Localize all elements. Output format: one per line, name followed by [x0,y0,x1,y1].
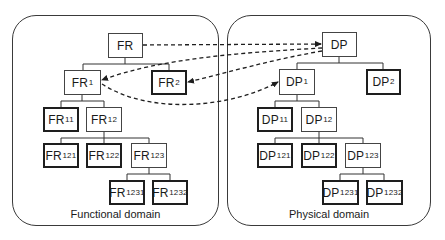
node-fr11: FR11 [43,107,79,132]
node-dp11: DP11 [257,107,293,132]
node-fr123: FR123 [131,143,167,168]
node-dp122: DP122 [301,143,337,168]
node-dp1232: DP1232 [366,180,403,205]
node-dp: DP [322,32,357,57]
node-fr12: FR12 [86,107,122,132]
node-dp1: DP1 [279,69,315,95]
node-dp2: DP2 [366,69,401,95]
node-dp121: DP121 [257,143,293,168]
node-fr1: FR1 [64,70,101,95]
node-fr1232: FR1232 [152,180,188,205]
node-fr: FR [108,33,143,58]
functional-domain-label: Functional domain [12,208,219,220]
node-dp1231: DP1231 [322,180,359,205]
node-dp12: DP12 [301,107,337,132]
arrow-fr1-to-dp1 [102,82,278,105]
node-fr122: FR122 [86,143,122,168]
node-fr121: FR121 [43,143,79,168]
node-fr2: FR2 [151,70,187,95]
physical-domain-label: Physical domain [227,208,431,220]
node-dp123: DP123 [345,143,381,168]
arrow-fr-to-dp [143,44,321,45]
node-fr1231: FR1231 [109,180,145,205]
